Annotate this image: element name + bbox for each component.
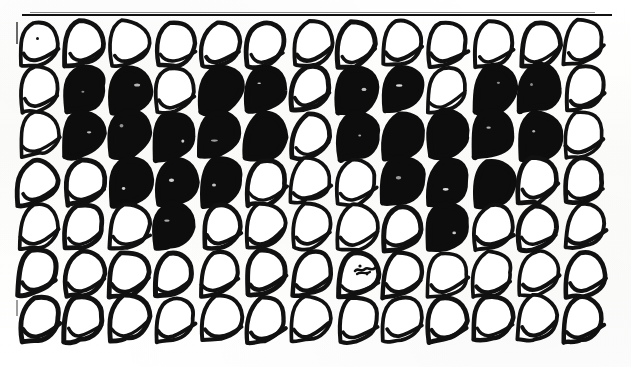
teardrop-outline-icon: [559, 292, 611, 350]
teardrop-cell: [105, 291, 157, 349]
teardrop-cell: [559, 292, 611, 350]
teardrop-cell: [513, 291, 565, 349]
teardrop-outline-icon: [513, 291, 565, 349]
teardrop-cell: [59, 292, 111, 350]
figure-canvas: [0, 0, 631, 367]
teardrop-grid: [0, 0, 631, 367]
teardrop-cell: [423, 292, 475, 350]
ink-scribble-icon: [352, 262, 378, 278]
teardrop-cell: [286, 292, 338, 350]
teardrop-cell: [241, 293, 293, 351]
teardrop-outline-icon: [150, 293, 202, 351]
teardrop-outline-icon: [59, 292, 111, 350]
teardrop-outline-icon: [105, 291, 157, 349]
teardrop-outline-icon: [423, 292, 475, 350]
ink-speck-icon: [36, 37, 39, 40]
teardrop-cell: [150, 293, 202, 351]
teardrop-outline-icon: [241, 293, 293, 351]
teardrop-outline-icon: [286, 292, 338, 350]
